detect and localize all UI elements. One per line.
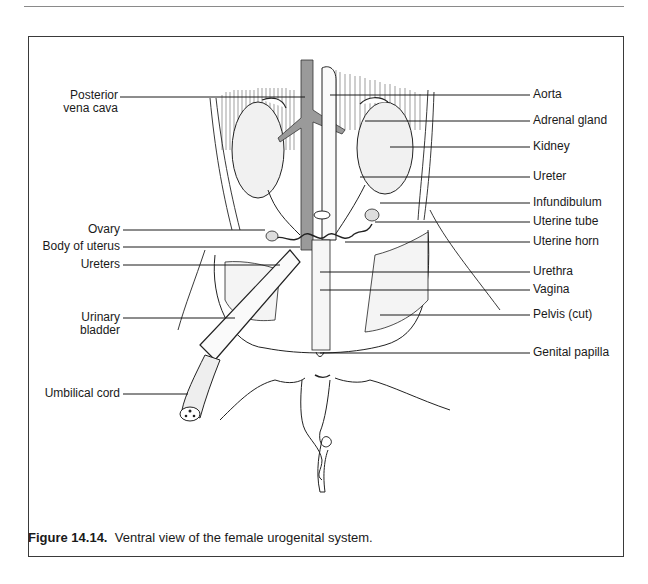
urethra-cut-shape xyxy=(314,211,330,219)
label-vagina: Vagina xyxy=(533,283,569,296)
label-body-of-uterus: Body of uterus xyxy=(20,240,120,253)
label-uterine-tube: Uterine tube xyxy=(533,215,598,228)
label-urinary-bladder: Urinary bladder xyxy=(60,311,120,337)
tail-shape xyxy=(318,432,332,492)
label-ureter: Ureter xyxy=(533,170,566,183)
figure-caption-text: Ventral view of the female urogenital sy… xyxy=(115,530,373,545)
right-kidney-shape xyxy=(357,102,413,194)
label-posterior-vena-cava: Posterior vena cava xyxy=(60,89,118,115)
figure-number: Figure 14.14. xyxy=(28,530,107,545)
label-infundibulum: Infundibulum xyxy=(533,196,602,209)
vagina-shape xyxy=(312,240,330,350)
hindlimb-outline xyxy=(220,378,450,480)
label-urethra: Urethra xyxy=(533,265,573,278)
umbilical-cord-end xyxy=(180,407,200,421)
ovary-right-shape xyxy=(365,209,379,221)
label-aorta: Aorta xyxy=(533,88,562,101)
label-uterine-horn: Uterine horn xyxy=(533,235,599,248)
label-ureters: Ureters xyxy=(20,258,120,271)
ureter-paths xyxy=(268,185,365,235)
label-adrenal-gland: Adrenal gland xyxy=(533,114,607,127)
label-umbilical-cord: Umbilical cord xyxy=(20,387,120,400)
label-ovary: Ovary xyxy=(20,223,120,236)
figure-caption: Figure 14.14. Ventral view of the female… xyxy=(28,530,373,545)
label-genital-papilla: Genital papilla xyxy=(533,346,609,359)
label-line: bladder xyxy=(60,324,120,337)
left-kidney-shape xyxy=(232,102,284,198)
ovary-left-shape xyxy=(266,231,278,241)
label-line: vena cava xyxy=(60,102,118,115)
label-kidney: Kidney xyxy=(533,140,570,153)
label-pelvis-cut: Pelvis (cut) xyxy=(533,308,592,321)
